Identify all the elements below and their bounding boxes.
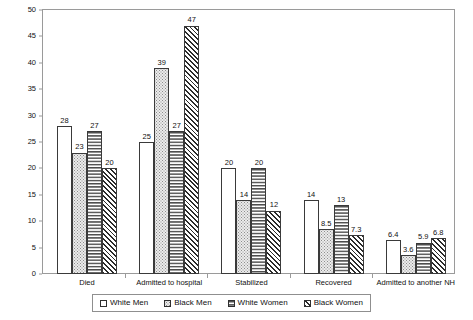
y-tick-label: 50	[28, 6, 36, 14]
y-tick-label: 20	[28, 165, 36, 173]
bar	[221, 168, 236, 274]
y-tick-label: 45	[28, 33, 36, 41]
y-axis-title: Percent	[0, 103, 1, 130]
bar	[57, 126, 72, 274]
x-axis-category-label: Admitted to another NH	[377, 279, 455, 287]
bar-value-label: 12	[270, 201, 278, 209]
legend-swatch-black-women	[304, 300, 311, 307]
bar-value-label: 14	[240, 191, 248, 199]
plot-area: 282327202539274720142012148.5137.36.43.6…	[43, 10, 454, 274]
y-tick-label: 0	[32, 270, 36, 278]
bar	[72, 153, 87, 274]
bar-group: 20142012	[221, 10, 281, 274]
y-tick-label: 5	[32, 244, 36, 252]
x-axis-category-label: Stabilized	[235, 279, 268, 287]
legend-swatch-black-men	[164, 300, 171, 307]
bar	[386, 240, 401, 274]
legend-label: Black Men	[174, 299, 211, 307]
legend-label: Black Women	[314, 299, 363, 307]
bar	[334, 205, 349, 274]
bar-value-label: 8.5	[321, 220, 331, 228]
bar-value-label: 13	[337, 196, 345, 204]
legend-item[interactable]: White Men	[100, 299, 148, 307]
bar-value-label: 20	[225, 159, 233, 167]
bar	[266, 211, 281, 274]
bar-group: 28232720	[57, 10, 117, 274]
x-tick-mark	[207, 274, 208, 278]
chart-root: Percent 05101520253035404550 28232720253…	[0, 0, 473, 320]
bar	[102, 168, 117, 274]
bar-value-label: 47	[188, 16, 196, 24]
legend-label: White Men	[110, 299, 148, 307]
bar-value-label: 27	[90, 122, 98, 130]
x-axis-category-label: Died	[79, 279, 94, 287]
y-tick-label: 35	[28, 85, 36, 93]
bar	[349, 235, 364, 274]
legend-item[interactable]: White Women	[228, 299, 288, 307]
bar-value-label: 7.3	[351, 226, 361, 234]
bar-value-label: 6.8	[433, 229, 443, 237]
bar	[319, 229, 334, 274]
legend-swatch-white-men	[100, 300, 107, 307]
bar	[251, 168, 266, 274]
bar-value-label: 14	[307, 191, 315, 199]
legend-label: White Women	[238, 299, 288, 307]
bar	[236, 200, 251, 274]
bar	[154, 68, 169, 274]
bar-value-label: 28	[60, 117, 68, 125]
bar-value-label: 27	[173, 122, 181, 130]
bar	[401, 255, 416, 274]
y-tick-label: 25	[28, 138, 36, 146]
bar	[184, 26, 199, 274]
bar	[304, 200, 319, 274]
x-tick-mark	[372, 274, 373, 278]
y-axis: Percent 05101520253035404550	[0, 0, 42, 265]
bar-value-label: 3.6	[403, 246, 413, 254]
y-tick-label: 40	[28, 59, 36, 67]
bar-group: 25392747	[139, 10, 199, 274]
bar-value-label: 23	[75, 143, 83, 151]
bar	[431, 238, 446, 274]
x-axis-category-label: Recovered	[315, 279, 351, 287]
legend-item[interactable]: Black Women	[304, 299, 363, 307]
bar-value-label: 39	[158, 59, 166, 67]
x-axis-category-label: Admitted to hospital	[136, 279, 202, 287]
bar-group: 148.5137.3	[304, 10, 364, 274]
bar-value-label: 6.4	[388, 231, 398, 239]
bar-value-label: 20	[255, 159, 263, 167]
legend-item[interactable]: Black Men	[164, 299, 211, 307]
bar-value-label: 25	[143, 133, 151, 141]
y-tick-label: 15	[28, 191, 36, 199]
bar-value-label: 20	[105, 159, 113, 167]
y-tick-label: 10	[28, 217, 36, 225]
x-tick-mark	[290, 274, 291, 278]
bar	[139, 142, 154, 274]
x-tick-mark	[125, 274, 126, 278]
bar-group: 6.43.65.96.8	[386, 10, 446, 274]
legend-swatch-white-women	[228, 300, 235, 307]
x-axis: DiedAdmitted to hospitalStabilizedRecove…	[43, 277, 454, 291]
bar	[87, 131, 102, 274]
bar-value-label: 5.9	[418, 233, 428, 241]
chart-legend: White MenBlack MenWhite WomenBlack Women	[92, 294, 371, 312]
y-tick-label: 30	[28, 112, 36, 120]
bar	[169, 131, 184, 274]
bar	[416, 243, 431, 274]
